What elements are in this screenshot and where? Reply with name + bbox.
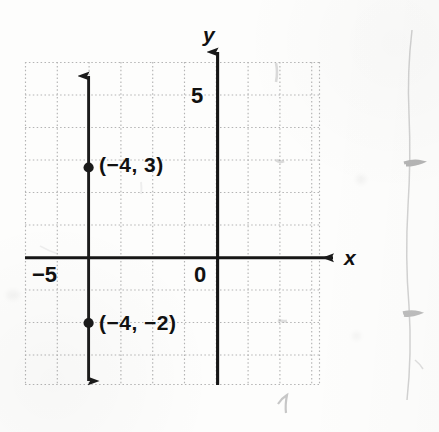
y-axis-label: y bbox=[203, 24, 215, 45]
point-label-b: (−4, −2) bbox=[99, 312, 177, 333]
point-label-a: (−4, 3) bbox=[99, 154, 164, 175]
point-marker-b bbox=[84, 318, 94, 328]
x-tick-label-neg5: −5 bbox=[32, 264, 57, 286]
point-marker-a bbox=[84, 162, 94, 172]
page-crease-mark bbox=[403, 30, 423, 400]
x-axis-label: x bbox=[344, 247, 356, 268]
grid-vertical-lines bbox=[26, 62, 320, 385]
scan-artifacts bbox=[40, 63, 287, 325]
y-tick-label-5: 5 bbox=[191, 85, 203, 107]
coordinate-graph bbox=[0, 0, 439, 432]
pencil-mark-one bbox=[278, 395, 287, 413]
scanned-page: y x 5 −5 0 (−4, 3) (−4, −2) bbox=[0, 0, 439, 432]
grid-horizontal-lines bbox=[25, 63, 320, 385]
origin-label-0: 0 bbox=[194, 264, 206, 286]
